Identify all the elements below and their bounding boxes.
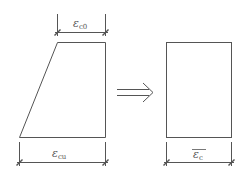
double-arrow-icon xyxy=(117,83,153,102)
diagram-canvas: εc0 εcu εc xyxy=(0,0,248,181)
label-epsilon-cu: εcu xyxy=(52,147,67,161)
rectangle-equivalent-block xyxy=(167,43,232,138)
label-epsilon-c0: εc0 xyxy=(73,17,87,31)
label-epsilon-c-bar: εc xyxy=(193,148,203,162)
trapezoid-strain-block xyxy=(20,43,106,138)
